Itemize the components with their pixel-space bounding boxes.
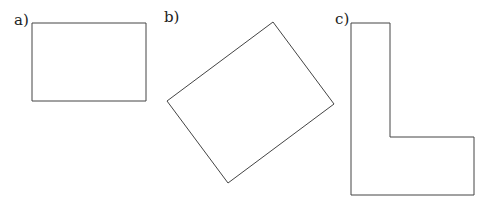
figure-canvas: a) b) c) [0,0,488,204]
rectangle-a-shape [32,23,146,101]
panel-label-b: b) [164,10,179,25]
l-shape-c-shape [351,23,474,195]
rotated-rectangle-b-shape [167,22,334,183]
shapes-svg [0,0,488,204]
panel-label-a: a) [14,13,29,28]
panel-label-c: c) [335,12,349,27]
